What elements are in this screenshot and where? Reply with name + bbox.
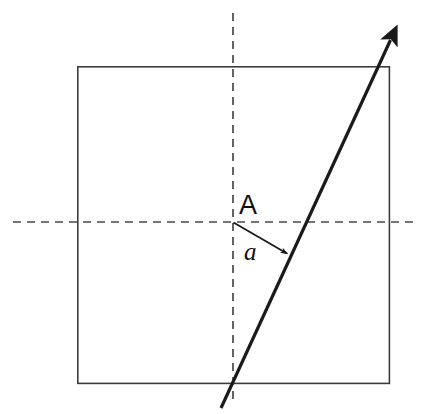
point-label-a: A xyxy=(239,192,257,219)
diagram-svg xyxy=(0,0,427,414)
direction-ray xyxy=(221,40,391,408)
angle-indicator-arrow xyxy=(234,223,288,254)
angle-label-a: a xyxy=(244,239,257,264)
figure-canvas: A a xyxy=(0,0,427,414)
